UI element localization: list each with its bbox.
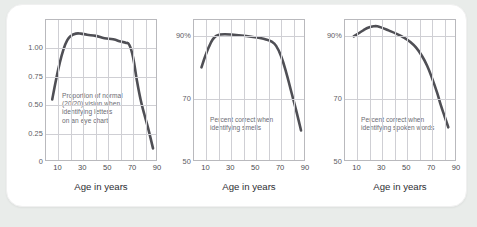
x-tick-label: 10 xyxy=(352,163,360,172)
x-tick-label: 30 xyxy=(377,163,385,172)
y-tick-label: 70 xyxy=(183,93,191,102)
horizontal-gridline xyxy=(345,36,455,37)
curve-vision xyxy=(46,20,158,162)
data-line-vision xyxy=(52,33,153,148)
vertical-gridline xyxy=(231,20,232,160)
y-tick-label: 90% xyxy=(327,30,342,39)
x-axis-title-spoken-words: Age in years xyxy=(344,181,456,192)
y-tick-label: 0.50 xyxy=(28,100,43,109)
plot-area-vision: Proportion of normal (20/20) vision when… xyxy=(45,19,157,161)
horizontal-gridline xyxy=(194,99,304,100)
x-tick-label: 10 xyxy=(53,163,61,172)
y-tick-label: 90% xyxy=(176,30,191,39)
vertical-gridline xyxy=(108,20,109,160)
vertical-gridline xyxy=(395,20,396,160)
vertical-gridline xyxy=(58,20,59,160)
x-tick-label: 70 xyxy=(128,163,136,172)
vertical-gridline xyxy=(294,20,295,160)
vertical-gridline xyxy=(370,20,371,160)
curve-spoken-words xyxy=(345,20,457,162)
x-tick-label: 30 xyxy=(226,163,234,172)
y-axis-ticks-vision: 00.250.500.751.00 xyxy=(11,19,43,161)
x-axis-ticks-vision: 1030507090 xyxy=(45,163,157,177)
chart-panel-vision: 00.250.500.751.00 Proportion of normal (… xyxy=(11,5,163,206)
y-tick-label: 0.75 xyxy=(28,71,43,80)
y-axis-ticks-smell: 507090% xyxy=(159,19,191,161)
vertical-gridline xyxy=(407,20,408,160)
vertical-gridline xyxy=(219,20,220,160)
y-tick-label: 50 xyxy=(183,157,191,166)
vertical-gridline xyxy=(382,20,383,160)
horizontal-gridline xyxy=(194,36,304,37)
vertical-gridline xyxy=(281,20,282,160)
x-tick-label: 10 xyxy=(201,163,209,172)
y-tick-label: 70 xyxy=(334,93,342,102)
x-tick-label: 50 xyxy=(251,163,259,172)
horizontal-gridline xyxy=(46,48,156,49)
vertical-gridline xyxy=(256,20,257,160)
y-axis-ticks-spoken-words: 507090% xyxy=(310,19,342,161)
vertical-gridline xyxy=(269,20,270,160)
vertical-gridline xyxy=(445,20,446,160)
vertical-gridline xyxy=(133,20,134,160)
vertical-gridline xyxy=(146,20,147,160)
x-tick-label: 90 xyxy=(452,163,460,172)
figure-card: 00.250.500.751.00 Proportion of normal (… xyxy=(6,4,467,207)
chart-panel-spoken-words: 507090% Percent correct when identifying… xyxy=(310,5,462,206)
vertical-gridline xyxy=(357,20,358,160)
vertical-gridline xyxy=(244,20,245,160)
x-axis-title-smell: Age in years xyxy=(193,181,305,192)
horizontal-gridline xyxy=(46,134,156,135)
screenshot-root: 00.250.500.751.00 Proportion of normal (… xyxy=(0,0,477,227)
data-line-spoken-words xyxy=(354,26,449,127)
x-axis-ticks-spoken-words: 1030507090 xyxy=(344,163,456,177)
y-tick-label: 0.25 xyxy=(28,128,43,137)
plot-area-smell: Percent correct when identifying smells xyxy=(193,19,305,161)
curve-smell xyxy=(194,20,306,162)
x-axis-title-vision: Age in years xyxy=(45,181,157,192)
vertical-gridline xyxy=(432,20,433,160)
chart-panel-smell: 507090% Percent correct when identifying… xyxy=(159,5,311,206)
horizontal-gridline xyxy=(46,105,156,106)
x-tick-label: 90 xyxy=(301,163,309,172)
vertical-gridline xyxy=(71,20,72,160)
y-tick-label: 1.00 xyxy=(28,43,43,52)
data-line-smell xyxy=(201,34,301,130)
vertical-gridline xyxy=(206,20,207,160)
x-tick-label: 70 xyxy=(276,163,284,172)
vertical-gridline xyxy=(96,20,97,160)
vertical-gridline xyxy=(83,20,84,160)
vertical-gridline xyxy=(121,20,122,160)
chart-panels: 00.250.500.751.00 Proportion of normal (… xyxy=(7,5,466,206)
y-tick-label: 50 xyxy=(334,157,342,166)
vertical-gridline xyxy=(420,20,421,160)
plot-area-spoken-words: Percent correct when identifying spoken … xyxy=(344,19,456,161)
horizontal-gridline xyxy=(345,99,455,100)
x-tick-label: 50 xyxy=(103,163,111,172)
x-tick-label: 70 xyxy=(427,163,435,172)
x-tick-label: 30 xyxy=(78,163,86,172)
y-tick-label: 0 xyxy=(39,157,43,166)
horizontal-gridline xyxy=(46,77,156,78)
x-tick-label: 50 xyxy=(402,163,410,172)
x-axis-ticks-smell: 1030507090 xyxy=(193,163,305,177)
